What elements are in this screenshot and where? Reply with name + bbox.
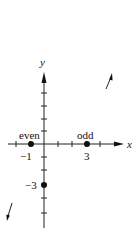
point-even [28, 141, 34, 147]
y-axis-label: y [40, 57, 45, 68]
y-axis-arrowhead [42, 72, 47, 83]
point-label-even: even [19, 130, 40, 141]
point-odd [84, 141, 90, 147]
point-label-odd: odd [77, 130, 94, 141]
x-tick-label-3: 3 [84, 151, 90, 162]
point-neg3 [41, 182, 47, 188]
x-tick-label-neg1: −1 [20, 151, 32, 162]
down-left-arrow-icon [6, 203, 12, 221]
x-axis-label: x [127, 139, 132, 150]
y-tick-label-neg3: −3 [25, 180, 37, 191]
coordinate-plane [0, 0, 138, 246]
x-axis-arrowhead [114, 142, 124, 147]
up-right-arrow-icon [106, 73, 113, 89]
